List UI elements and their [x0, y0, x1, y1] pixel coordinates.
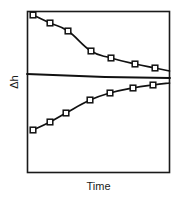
plot-frame — [28, 12, 170, 173]
data-point-marker — [130, 85, 136, 91]
data-point-marker — [47, 119, 53, 125]
data-point-marker — [88, 48, 94, 54]
data-point-marker — [152, 65, 158, 71]
data-point-marker — [150, 82, 156, 88]
chart-figure: Δh Time — [0, 0, 180, 203]
data-point-marker — [87, 97, 93, 103]
data-point-marker — [108, 55, 114, 61]
data-point-marker — [132, 61, 138, 67]
data-point-marker — [63, 110, 69, 116]
x-axis-label: Time — [27, 180, 170, 192]
y-axis-label: Δh — [0, 70, 34, 94]
data-point-marker — [30, 127, 36, 133]
data-point-marker — [30, 12, 36, 18]
chart-canvas — [0, 0, 180, 203]
data-point-marker — [47, 20, 53, 26]
data-point-marker — [107, 90, 113, 96]
data-point-marker — [65, 28, 71, 34]
